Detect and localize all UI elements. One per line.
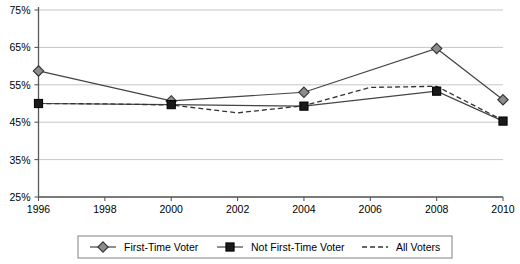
line-chart: 75%65%55%45%35%25% 199619982000200220042…: [0, 0, 520, 264]
legend-label-not-first-time-voter: Not First-Time Voter: [251, 241, 345, 253]
y-tick-label-45: 45%: [9, 116, 30, 128]
marker-not-first-time-voter-2010: [499, 117, 507, 125]
y-tick-labels-group: 75%65%55%45%35%25%: [9, 4, 30, 203]
x-tick-label-1998: 1998: [93, 203, 117, 215]
x-tick-label-2010: 2010: [491, 203, 515, 215]
x-tick-label-1996: 1996: [27, 203, 51, 215]
legend-label-all-voters: All Voters: [396, 241, 440, 253]
marker-first-time-voter-2008: [431, 43, 441, 53]
y-tick-label-25: 25%: [9, 191, 30, 203]
marker-first-time-voter-2004: [299, 87, 309, 97]
x-tick-label-2004: 2004: [292, 203, 316, 215]
legend: First-Time VoterNot First-Time VoterAll …: [78, 236, 452, 258]
y-tick-label-65: 65%: [9, 41, 30, 53]
marker-not-first-time-voter-1996: [34, 99, 42, 107]
marker-first-time-voter-2010: [498, 95, 508, 105]
series-markers-group: [33, 43, 508, 125]
marker-first-time-voter-1996: [33, 66, 43, 76]
marker-not-first-time-voter-2004: [300, 102, 308, 110]
marker-not-first-time-voter-2008: [433, 87, 441, 95]
y-tick-label-35: 35%: [9, 154, 30, 166]
y-tick-label-75: 75%: [9, 4, 30, 16]
marker-not-first-time-voter-2000: [167, 101, 175, 109]
x-tick-label-2008: 2008: [425, 203, 449, 215]
chart-svg: 75%65%55%45%35%25% 199619982000200220042…: [0, 0, 520, 264]
x-axis-group: [39, 197, 504, 201]
legend-marker-not-first-time-voter: [226, 243, 234, 251]
legend-label-first-time-voter: First-Time Voter: [124, 241, 199, 253]
x-tick-label-2000: 2000: [160, 203, 184, 215]
y-tick-label-55: 55%: [9, 79, 30, 91]
x-tick-label-2002: 2002: [226, 203, 250, 215]
x-tick-label-2006: 2006: [359, 203, 383, 215]
x-tick-labels-group: 19961998200020022004200620082010: [27, 203, 515, 215]
